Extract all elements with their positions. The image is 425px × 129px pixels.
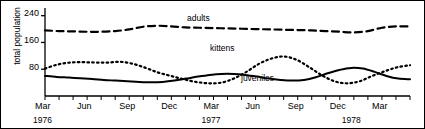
x-tick-label-6: Sep xyxy=(288,101,304,111)
x-tick-label-0: Mar xyxy=(35,101,51,111)
year-label-1977: 1977 xyxy=(201,115,220,125)
x-tick-label-5: Jun xyxy=(246,101,261,111)
x-tick-label-4: Mar xyxy=(203,101,219,111)
year-label-1978: 1978 xyxy=(342,115,361,125)
x-tick-label-3: Dec xyxy=(161,101,177,111)
x-tick-label-7: Dec xyxy=(330,101,346,111)
x-tick-label-8: Mar xyxy=(372,101,388,111)
series-path-adults xyxy=(45,26,410,33)
population-chart-figure: total population 240 160 80 adults kitte… xyxy=(0,0,425,129)
year-label-1976: 1976 xyxy=(33,115,52,125)
x-tick-label-2: Sep xyxy=(119,101,135,111)
x-tick-label-1: Jun xyxy=(77,101,92,111)
